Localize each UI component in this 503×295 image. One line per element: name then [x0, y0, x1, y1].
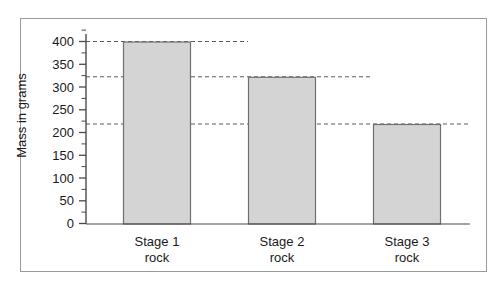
y-tick-label-200: 200	[38, 126, 74, 139]
y-tick-label-0: 0	[38, 217, 74, 230]
y-tick-label-150: 150	[38, 149, 74, 162]
y-tick-label-400: 400	[38, 35, 74, 48]
bars	[124, 42, 441, 224]
y-tick-label-50: 50	[38, 194, 74, 207]
y-tick-label-250: 250	[38, 103, 74, 116]
y-axis-title: Mass in grams	[14, 51, 29, 181]
bar-stage-3	[374, 125, 441, 225]
y-tick-label-100: 100	[38, 172, 74, 185]
y-tick-label-350: 350	[38, 58, 74, 71]
y-major-ticks	[79, 42, 86, 224]
x-category-label-stage-1: Stage 1 rock	[102, 234, 212, 266]
x-category-label-stage-2: Stage 2 rock	[227, 234, 337, 266]
bar-stage-1	[124, 42, 191, 224]
x-category-label-stage-3: Stage 3 rock	[352, 234, 462, 266]
y-tick-label-300: 300	[38, 81, 74, 94]
y-axis-tick-labels: 400 350 300 250 200 150 100 50 0	[38, 0, 74, 295]
bar-chart: Mass in grams 400 350 300 250 200 150 10…	[0, 0, 503, 295]
bar-stage-2	[249, 77, 316, 224]
